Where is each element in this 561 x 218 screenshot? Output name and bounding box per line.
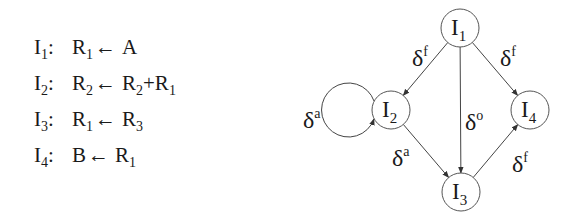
- edge-labels: δfδfδoδaδfδa: [303, 44, 528, 177]
- edge-label: δa: [392, 144, 410, 171]
- edge-label: δf: [500, 44, 516, 71]
- edge-label: δo: [465, 108, 483, 135]
- self-loop-edge: [322, 83, 374, 137]
- edge-label: δf: [412, 44, 428, 71]
- edge-label: δa: [303, 106, 321, 133]
- edge-I1-I3: [460, 47, 461, 173]
- edge-I2-I3: [403, 124, 448, 177]
- edge-label: δf: [512, 150, 528, 177]
- dependence-graph: I1I2I3I4 δfδfδoδaδfδa: [0, 0, 561, 218]
